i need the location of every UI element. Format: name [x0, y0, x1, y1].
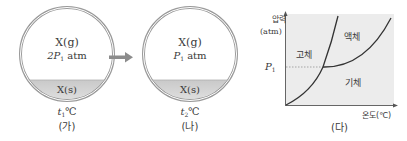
figure: X(g) 2P1 atm X(s) t1℃ (가) X(g) P1 atm X(… [0, 0, 407, 141]
temperature-label: t2℃ [180, 106, 199, 118]
phase-diagram: 압력 (atm) P1 고체 액체 기체 온도(℃) (다) [260, 11, 398, 133]
flask-ga: X(g) 2P1 atm X(s) t1℃ (가) [20, 8, 115, 133]
temperature-label: t1℃ [57, 106, 76, 118]
y-axis-label: 압력 [272, 14, 286, 24]
p1-tick-label: P1 [264, 61, 276, 73]
panel-label: (가) [59, 121, 76, 132]
panel-label: (나) [182, 121, 199, 132]
region-solid: 고체 [296, 50, 312, 60]
x-axis-label: 온도(℃) [362, 111, 391, 120]
gas-label: X(g) [178, 36, 201, 49]
flask-na: X(g) P1 atm X(s) t2℃ (나) [143, 8, 238, 133]
pressure-label: 2P1 atm [46, 50, 87, 62]
gas-label: X(g) [55, 36, 78, 49]
solid-label: X(s) [57, 84, 77, 95]
pressure-label: P1 atm [172, 50, 207, 62]
y-axis-unit: (atm) [260, 27, 282, 36]
solid-label: X(s) [180, 84, 200, 95]
panel-label: (다) [331, 122, 348, 133]
region-liquid: 액체 [344, 31, 360, 42]
region-gas: 기체 [345, 78, 361, 88]
